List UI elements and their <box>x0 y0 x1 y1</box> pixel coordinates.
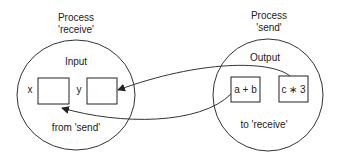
var-x-label: x <box>28 84 33 95</box>
send-title-line1: Process <box>251 10 287 21</box>
send-output-label: Output <box>250 52 280 63</box>
send-footer: to 'receive' <box>240 119 287 130</box>
var-y-label: y <box>77 84 82 95</box>
expr-c-times-3: c ∗ 3 <box>281 84 306 95</box>
receive-title-line1: Process <box>58 12 94 23</box>
arrow-c3-to-y <box>118 65 290 90</box>
var-y-box <box>87 78 117 104</box>
var-x-box <box>38 78 69 104</box>
process-communication-diagram: Process 'receive' Input x y from 'send' … <box>0 0 341 162</box>
process-receive: Process 'receive' Input x y from 'send' <box>17 12 135 150</box>
receive-input-label: Input <box>65 56 87 67</box>
receive-footer: from 'send' <box>52 122 100 133</box>
send-title-line2: 'send' <box>256 22 282 33</box>
process-send: Process 'send' Output a + b c ∗ 3 to 're… <box>213 10 323 151</box>
expr-a-plus-b: a + b <box>234 84 257 95</box>
receive-title-line2: 'receive' <box>58 24 94 35</box>
